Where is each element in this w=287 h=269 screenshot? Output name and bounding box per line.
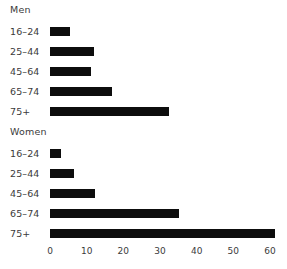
bar-men-65-74: [50, 87, 112, 96]
bar-category-label: 16–24: [10, 26, 46, 37]
x-tick-label: 0: [47, 246, 53, 256]
bar-row: 16–24: [0, 144, 287, 164]
bar-track: [50, 144, 275, 164]
bar-row: 65–74: [0, 82, 287, 102]
bar-track: [50, 224, 275, 244]
bar-category-label: 25–44: [10, 46, 46, 57]
bar-row: 16–24: [0, 22, 287, 42]
x-tick-label: 40: [191, 246, 202, 256]
bar-men-75-plus: [50, 107, 169, 116]
bar-row: 75+: [0, 102, 287, 122]
bar-women-75-plus: [50, 229, 275, 238]
bar-row: 65–74: [0, 204, 287, 224]
bar-category-label: 16–24: [10, 148, 46, 159]
bar-track: [50, 204, 275, 224]
group-heading-men: Men: [10, 4, 31, 15]
bar-category-label: 75+: [10, 106, 46, 117]
bar-women-16-24: [50, 149, 61, 158]
bar-track: [50, 164, 275, 184]
bar-men-16-24: [50, 27, 70, 36]
bar-men-25-44: [50, 47, 94, 56]
bar-row: 45–64: [0, 62, 287, 82]
bar-track: [50, 42, 275, 62]
bar-chart: Men 16–24 25–44 45–64 65–74 75+ Women 16…: [0, 0, 287, 269]
bar-category-label: 45–64: [10, 188, 46, 199]
bar-category-label: 65–74: [10, 86, 46, 97]
bar-row: 25–44: [0, 42, 287, 62]
bar-track: [50, 22, 275, 42]
group-heading-women: Women: [10, 126, 47, 137]
x-tick-label: 20: [118, 246, 129, 256]
bar-category-label: 45–64: [10, 66, 46, 77]
bar-track: [50, 82, 275, 102]
x-tick-label: 60: [264, 246, 275, 256]
bar-track: [50, 184, 275, 204]
bar-women-45-64: [50, 189, 95, 198]
bar-track: [50, 102, 275, 122]
x-tick-label: 50: [228, 246, 239, 256]
bar-category-label: 25–44: [10, 168, 46, 179]
x-tick-label: 10: [81, 246, 92, 256]
bar-category-label: 65–74: [10, 208, 46, 219]
bar-track: [50, 62, 275, 82]
bar-row: 45–64: [0, 184, 287, 204]
bar-row: 75+: [0, 224, 287, 244]
x-tick-label: 30: [154, 246, 165, 256]
bar-women-25-44: [50, 169, 74, 178]
bar-men-45-64: [50, 67, 91, 76]
x-axis: 0 10 20 30 40 50 60: [0, 246, 287, 262]
bar-category-label: 75+: [10, 228, 46, 239]
bar-row: 25–44: [0, 164, 287, 184]
bar-women-65-74: [50, 209, 179, 218]
